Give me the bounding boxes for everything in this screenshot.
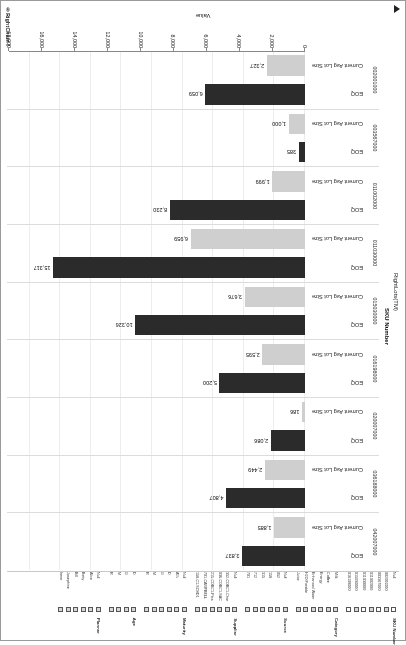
slicer-item[interactable]: G <box>124 572 130 612</box>
bar-row[interactable]: EOQ5,200 <box>7 369 379 397</box>
bar-row[interactable]: Current Avg Lot Size3,676 <box>7 283 379 311</box>
slicer-item[interactable]: Alice <box>88 572 94 612</box>
checkbox-icon[interactable] <box>74 607 79 612</box>
checkbox-icon[interactable] <box>362 607 367 612</box>
checkbox-icon[interactable] <box>210 607 215 612</box>
bar-row[interactable]: EOQ385 <box>7 138 379 166</box>
slicer-item[interactable]: G <box>159 572 165 612</box>
slicer-item[interactable]: 158-C1-SCHD1 <box>195 572 201 612</box>
checkbox-icon[interactable] <box>233 607 238 612</box>
checkbox-icon[interactable] <box>354 607 359 612</box>
slicer-item[interactable]: M <box>152 572 158 612</box>
slicer-item[interactable]: 158 <box>268 572 274 612</box>
slicer-item[interactable]: Null <box>391 572 397 612</box>
slicer-item[interactable]: Josephine <box>66 572 72 612</box>
checkbox-icon[interactable] <box>326 607 331 612</box>
bar-row[interactable]: Current Avg Lot Size1,885 <box>7 513 379 541</box>
bar-row[interactable]: Current Avg Lot Size2,449 <box>7 456 379 484</box>
checkbox-icon[interactable] <box>218 607 223 612</box>
bar-row[interactable]: EOQ8,230 <box>7 196 379 224</box>
slicer-item[interactable]: Energy <box>318 572 324 612</box>
bar-eoq[interactable] <box>53 257 305 277</box>
checkbox-icon[interactable] <box>89 607 94 612</box>
slicer-item[interactable]: 352-COBC1-Char <box>225 572 231 612</box>
bar-lot[interactable] <box>265 460 305 480</box>
bar-lot[interactable] <box>302 402 305 422</box>
checkbox-icon[interactable] <box>311 607 316 612</box>
checkbox-icon[interactable] <box>66 607 71 612</box>
checkbox-icon[interactable] <box>246 607 251 612</box>
slicer-item[interactable]: Betty <box>81 572 87 612</box>
bar-eoq[interactable] <box>170 200 305 220</box>
checkbox-icon[interactable] <box>268 607 273 612</box>
checkbox-icon[interactable] <box>117 607 122 612</box>
slicer-item[interactable]: Coffee <box>326 572 332 612</box>
bar-eoq[interactable] <box>299 142 305 162</box>
checkbox-icon[interactable] <box>182 607 187 612</box>
checkbox-icon[interactable] <box>296 607 301 612</box>
checkbox-icon[interactable] <box>160 607 165 612</box>
slicer-item[interactable]: 003567000 <box>376 572 382 612</box>
bar-lot[interactable] <box>274 517 305 537</box>
checkbox-icon[interactable] <box>319 607 324 612</box>
checkbox-icon[interactable] <box>377 607 382 612</box>
slicer-item[interactable]: 701-CAMPBELL <box>202 572 208 612</box>
slicer-item[interactable]: A% <box>174 572 180 612</box>
bar-eoq[interactable] <box>242 546 305 566</box>
slicer-item[interactable]: Irene <box>58 572 64 612</box>
checkbox-icon[interactable] <box>109 607 114 612</box>
checkbox-icon[interactable] <box>152 607 157 612</box>
checkbox-icon[interactable] <box>96 607 101 612</box>
bar-row[interactable]: EOQ15,317 <box>7 253 379 281</box>
checkbox-icon[interactable] <box>145 607 150 612</box>
slicer-item[interactable]: Null <box>283 572 289 612</box>
slicer-item[interactable]: 701 <box>245 572 251 612</box>
slicer-item[interactable]: Bill <box>73 572 79 612</box>
checkbox-icon[interactable] <box>347 607 352 612</box>
slicer-item[interactable]: 712 <box>253 572 259 612</box>
checkbox-icon[interactable] <box>283 607 288 612</box>
checkbox-icon[interactable] <box>261 607 266 612</box>
bar-row[interactable]: Current Avg Lot Size186 <box>7 398 379 426</box>
checkbox-icon[interactable] <box>384 607 389 612</box>
slicer-item[interactable]: H2O Potable <box>303 572 309 612</box>
checkbox-icon[interactable] <box>334 607 339 612</box>
bar-row[interactable]: Current Avg Lot Size1,000 <box>7 110 379 138</box>
bar-row[interactable]: Current Avg Lot Size2,595 <box>7 340 379 368</box>
bar-row[interactable]: Current Avg Lot Size6,959 <box>7 225 379 253</box>
checkbox-icon[interactable] <box>132 607 137 612</box>
checkbox-icon[interactable] <box>203 607 208 612</box>
slicer-item[interactable]: D <box>167 572 173 612</box>
slicer-item[interactable]: R <box>144 572 150 612</box>
slicer-item[interactable]: 016198000 <box>346 572 352 612</box>
bar-lot[interactable] <box>267 55 305 76</box>
bar-row[interactable]: EOQ4,807 <box>7 484 379 512</box>
slicer-item[interactable]: 036-COBC1-SAC <box>217 572 223 612</box>
checkbox-icon[interactable] <box>195 607 200 612</box>
slicer-item[interactable]: Enhanced Water <box>311 572 317 612</box>
bar-row[interactable]: Current Avg Lot Size1,999 <box>7 167 379 195</box>
bar-lot[interactable] <box>272 171 305 191</box>
checkbox-icon[interactable] <box>253 607 258 612</box>
bar-eoq[interactable] <box>135 315 305 335</box>
checkbox-icon[interactable] <box>59 607 64 612</box>
bar-row[interactable]: EOQ2,086 <box>7 426 379 454</box>
checkbox-icon[interactable] <box>124 607 129 612</box>
bar-eoq[interactable] <box>205 84 305 105</box>
slicer-item[interactable]: 052 <box>275 572 281 612</box>
bar-eoq[interactable] <box>271 430 305 450</box>
bar-row[interactable]: EOQ6,059 <box>7 80 379 109</box>
checkbox-icon[interactable] <box>225 607 230 612</box>
checkbox-icon[interactable] <box>369 607 374 612</box>
bar-lot[interactable] <box>262 344 305 364</box>
checkbox-icon[interactable] <box>81 607 86 612</box>
bar-row[interactable]: Current Avg Lot Size2,327 <box>7 51 379 80</box>
slicer-item[interactable]: Null <box>232 572 238 612</box>
bar-lot[interactable] <box>289 114 305 134</box>
bar-eoq[interactable] <box>226 488 305 508</box>
checkbox-icon[interactable] <box>304 607 309 612</box>
slicer-item[interactable]: M <box>116 572 122 612</box>
slicer-item[interactable]: Juice <box>296 572 302 612</box>
slicer-item[interactable]: 215-COBC1-Pitts <box>210 572 216 612</box>
slicer-item[interactable]: R <box>109 572 115 612</box>
